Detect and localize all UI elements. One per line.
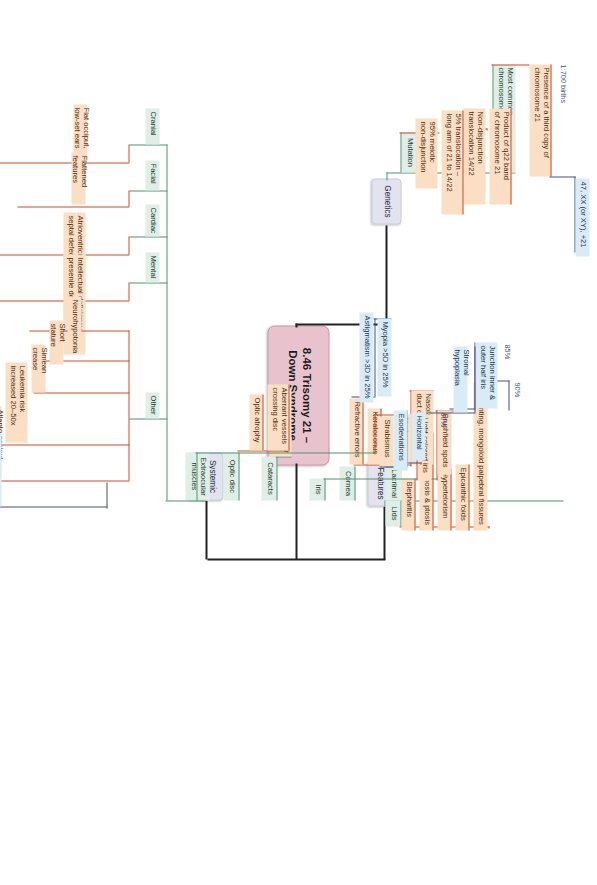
ocular-node-strabismus[interactable]: Strabismus [379,416,393,466]
trunk-root-left [295,323,297,327]
genetics-b3-stem [400,132,401,172]
genetics-q22-stem [510,108,511,204]
ocular-aberrant-stem [288,384,289,450]
genetics-spine-foot [386,172,387,180]
trunk-to-genetics [385,225,387,324]
ocular-node-blepharitis[interactable]: Blepharitis [401,478,415,530]
ocular-bleph2-stem [414,478,415,530]
mindmap-page: 8.46 Trisomy 21 – Down Syndrome Genetics… [0,0,597,885]
ocular-node-myopia[interactable]: Myopia >5D in 25% [377,318,391,396]
systemic-simean-v [33,392,129,393]
systemic-node-hyperextension[interactable]: Hyperextension with intubation [0,434,1,506]
ocular-eom-stem [196,452,197,500]
genetics-node-5-translocation[interactable]: 5% translocation – long arm of 21 to 14/… [441,110,463,214]
ocular-note-80: 80% [435,412,449,438]
systemic-branch-cardiac[interactable]: Cardiac [145,204,159,236]
ocular-cornea-stem [354,466,355,500]
ocular-node-refractive[interactable]: Refractive errors [349,398,363,464]
systemic-node-simean[interactable]: Simean crease [31,344,45,392]
systemic-cranial-red-v [0,162,129,163]
genetics-node-95-meiotic[interactable]: 95% meiotic non-disjunction [415,118,437,188]
systemic-other-red-h [128,330,129,480]
ocular-branch-optic-disc[interactable]: Optic disc [223,452,239,500]
genetics-thirdcopy-stem [550,64,551,176]
systemic-facial-red-v [17,206,129,207]
ocular-lids-red-top [488,526,489,528]
systemic-cranial-red-h [128,144,129,162]
ocular-stromal-navy-h [474,346,475,412]
ocular-node-junction[interactable]: Junction inner & outer half iris [475,342,497,408]
ocular-opticdisc-stem [238,452,239,500]
ocular-epi-stem [468,464,469,530]
genetics-node-q22[interactable]: Product of q22 band of chromosome 21 [489,108,511,204]
category-genetics[interactable]: Genetics [371,178,401,224]
mindmap-canvas: 8.46 Trisomy 21 – Down Syndrome Genetics… [0,0,597,885]
systemic-node-leukemia[interactable]: Leukemia risk increased 20–50x [5,362,27,442]
ocular-branch-cornea[interactable]: Cornea [339,466,355,500]
systemic-facial-red-h [128,190,129,206]
ocular-branch-lacrimal[interactable]: Lacrimal [385,466,401,500]
systemic-hyperext-h2 [106,482,107,508]
ocular-branch-cataracts[interactable]: Cataracts [261,456,277,500]
systemic-spine-riser [165,500,205,501]
genetics-note-births: 1:700 births [555,64,569,120]
systemic-branch-cranial[interactable]: Cranial [145,108,159,144]
systemic-hyperext-v [0,506,107,507]
genetics-node-karyotype[interactable]: 47, XX (or XY), +21 [575,178,589,256]
ocular-node-esodeviations[interactable]: Esodeviations [393,410,407,470]
ocular-atrophy-stem [262,394,263,450]
systemic-mental-red-h [128,282,129,300]
ocular-eom-v [195,452,375,453]
genetics-node-nondisjunction-translocation[interactable]: Non-disjunction translocation 14/22 [463,108,485,204]
ocular-node-aberrant[interactable]: Aberrant vessels crossing disc [267,384,289,450]
systemic-node-neurohypotonia[interactable]: Neurohypotonia [67,296,81,344]
genetics-karyotype-v [549,176,575,177]
ocular-node-stromal[interactable]: Stromal hypoplasia [453,346,467,412]
ocular-refr-stem [362,398,363,464]
ocular-node-astigmatism[interactable]: Astigmatism >3D in 25% [359,312,373,402]
systemic-node-flattened[interactable]: Flattened features [71,152,85,204]
ocular-node-epicanthic[interactable]: Epicanthic folds [455,464,469,530]
systemic-spine [166,144,167,500]
ocular-node-optic-atrophy[interactable]: Optic atrophy [249,394,263,450]
trunk-right [295,463,297,559]
ocular-horizontal-h [420,462,421,464]
systemic-node-short-stature[interactable]: Short stature [49,320,63,364]
ocular-cataracts-stem [276,456,277,500]
ocular-eom-red-h [374,414,375,454]
ocular-iris-stem [324,478,325,500]
ocular-branch-iris[interactable]: Iris [309,478,325,500]
ocular-note-90: 90% [509,382,523,412]
genetics-b2-red-h1 [486,128,487,130]
ocular-hyper-stem [450,468,451,530]
ocular-branch-lids[interactable]: Lids [385,500,401,526]
systemic-atlanto-v [0,480,129,481]
systemic-branch-mental[interactable]: Mental [145,252,159,282]
systemic-cardiac-red-h [128,236,129,254]
genetics-5trans-stem [462,110,463,214]
systemic-leukemia-v [1,444,129,445]
systemic-branch-other[interactable]: Other [145,392,159,418]
genetics-b1-red-v [491,64,529,65]
ocular-refr-navy-h [374,318,375,396]
ocular-node-horizontal[interactable]: Horizontal [411,412,425,460]
trunk-to-systemic [205,500,207,559]
genetics-node-third-copy[interactable]: Presence of a third copy of chromosome 2… [529,64,551,176]
ocular-note-85: 85% [499,344,513,372]
ocular-node-hypertelorism[interactable]: Hypertelorism [437,468,451,530]
trunk-right-v [207,558,385,560]
systemic-branch-facial[interactable]: Facial [145,160,159,190]
